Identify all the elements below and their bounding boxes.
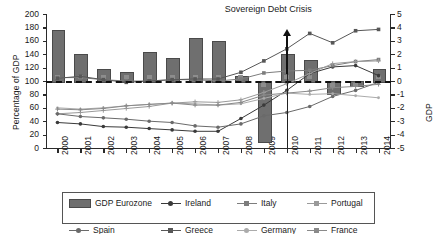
legend-swatch-line — [69, 226, 89, 234]
y-tick-mark-right — [391, 148, 395, 149]
y-tick-mark-left — [43, 148, 47, 149]
y-tick-mark-left — [43, 108, 47, 109]
data-point — [262, 93, 266, 97]
legend-label: Ireland — [185, 198, 211, 208]
data-point — [308, 32, 312, 36]
data-point — [170, 128, 174, 132]
annotation-sovereign-debt-crisis: Sovereign Debt Crisis — [225, 4, 312, 14]
data-point — [79, 115, 83, 119]
zero-reference-line — [46, 81, 391, 83]
legend-item-greece[interactable]: Greece — [161, 225, 213, 234]
x-tick-mark — [264, 149, 265, 153]
y-tick-mark-left — [43, 94, 47, 95]
data-point — [330, 86, 334, 90]
legend-swatch-line — [237, 199, 257, 207]
y-tick-mark-left — [43, 68, 47, 69]
y-tick-mark-right — [391, 27, 395, 28]
line-series-greece — [56, 28, 381, 85]
legend-item-germany[interactable]: Germany — [237, 225, 296, 234]
data-point — [331, 41, 335, 45]
x-tick-mark — [80, 149, 81, 153]
x-tick-mark — [149, 149, 150, 153]
x-tick-mark — [241, 149, 242, 153]
x-tick-mark — [172, 149, 173, 153]
x-tick-mark — [103, 149, 104, 153]
x-tick-mark — [310, 149, 311, 153]
data-point — [79, 75, 83, 79]
data-point — [216, 103, 220, 107]
data-point — [331, 95, 335, 99]
data-point — [147, 119, 151, 123]
y-tick-mark-right — [391, 108, 395, 109]
data-point — [308, 93, 311, 96]
legend-item-gdp-eurozone[interactable]: GDP Eurozone — [69, 198, 152, 208]
x-tick-mark — [57, 149, 58, 153]
data-point — [79, 122, 83, 126]
chart-legend: GDP EurozoneIrelandItalyPortugalSpainGre… — [62, 192, 375, 224]
x-tick-mark — [356, 149, 357, 153]
legend-swatch-line — [237, 226, 257, 234]
legend-item-france[interactable]: France — [307, 225, 357, 234]
x-tick-mark — [379, 149, 380, 153]
y-tick-mark-left — [43, 41, 47, 42]
data-point — [354, 89, 358, 93]
line-series-ireland — [56, 64, 381, 133]
data-point — [262, 114, 266, 118]
legend-item-italy[interactable]: Italy — [237, 198, 277, 208]
legend-swatch-line — [161, 199, 181, 207]
data-point — [239, 122, 243, 126]
data-point — [308, 89, 312, 93]
data-point — [262, 59, 266, 63]
data-point — [262, 97, 265, 100]
data-point — [216, 125, 220, 129]
legend-item-portugal[interactable]: Portugal — [307, 198, 363, 208]
crisis-arrow-head — [283, 29, 291, 36]
data-point — [377, 28, 381, 32]
data-point — [124, 104, 128, 108]
legend-item-spain[interactable]: Spain — [69, 225, 115, 234]
x-tick-mark — [287, 149, 288, 153]
y-tick-mark-right — [391, 14, 395, 15]
x-tick-mark — [218, 149, 219, 153]
y-tick-mark-right — [391, 81, 395, 82]
x-tick-mark — [333, 149, 334, 153]
data-point — [331, 92, 334, 95]
data-point — [239, 117, 243, 121]
data-point — [354, 64, 358, 68]
data-point — [354, 29, 358, 33]
data-point — [262, 103, 266, 107]
data-point — [170, 121, 174, 125]
legend-swatch-line — [161, 226, 181, 234]
legend-label: Greece — [185, 225, 213, 234]
y-tick-mark-left — [43, 27, 47, 28]
y-tick-mark-right — [391, 121, 395, 122]
data-point — [262, 71, 266, 75]
data-point — [308, 105, 312, 109]
legend-item-ireland[interactable]: Ireland — [161, 198, 211, 208]
legend-row: SpainGreeceGermanyFrance — [69, 209, 368, 222]
legend-swatch-bar — [69, 199, 91, 208]
legend-label: Spain — [93, 225, 115, 234]
y-tick-mark-left — [43, 54, 47, 55]
y-tick-mark-right — [391, 68, 395, 69]
data-point — [147, 127, 151, 131]
y-tick-mark-left — [43, 121, 47, 122]
data-point — [56, 121, 60, 125]
legend-label: Germany — [261, 225, 296, 234]
data-point — [124, 117, 128, 121]
data-point — [193, 129, 197, 133]
legend-swatch-line — [307, 226, 327, 234]
legend-label: Italy — [261, 198, 277, 208]
data-point — [377, 96, 380, 99]
legend-label: France — [331, 225, 357, 234]
crisis-arrow-shaft — [286, 36, 288, 74]
data-point — [56, 77, 60, 81]
data-point — [353, 84, 357, 88]
data-point — [56, 112, 60, 116]
data-point — [102, 116, 106, 120]
legend-label: GDP Eurozone — [95, 198, 152, 208]
y-tick-mark-right — [391, 54, 395, 55]
legend-swatch-line — [307, 199, 327, 207]
data-point — [170, 101, 174, 105]
data-point — [193, 124, 197, 128]
